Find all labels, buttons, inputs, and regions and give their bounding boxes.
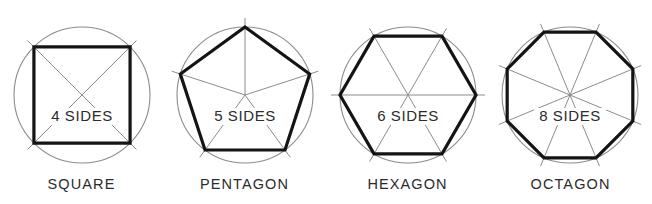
square-construction-lines: [28, 41, 137, 150]
square-radius-3: [28, 41, 82, 95]
hexagon-radius-2: [408, 95, 447, 162]
octagon-sides-label: 8 SIDES: [539, 107, 601, 124]
square-sides-label: 4 SIDES: [51, 107, 113, 124]
figure-hexagon: 6 SIDESHEXAGON: [326, 0, 489, 204]
hexagon-radius-5: [370, 28, 409, 95]
figure-pentagon: 5 SIDESPENTAGON: [163, 0, 326, 204]
square-caption: SQUARE: [0, 176, 163, 192]
hexagon-drawing: 6 SIDES: [326, 0, 489, 204]
square-radius-4: [82, 41, 136, 95]
figure-octagon: 8 SIDESOCTAGON: [489, 0, 652, 204]
octagon-caption: OCTAGON: [489, 176, 652, 192]
figure-square: 4 SIDESSQUARE: [0, 0, 163, 204]
octagon-construction-lines: [499, 24, 641, 166]
hexagon-caption: HEXAGON: [326, 176, 489, 192]
hexagon-sides-label: 6 SIDES: [377, 107, 439, 124]
octagon-drawing: 8 SIDES: [489, 0, 652, 204]
pentagon-radius-4: [200, 95, 245, 157]
pentagon-construction-lines: [172, 18, 318, 157]
polygon-construction-figure: 4 SIDESSQUARE5 SIDESPENTAGON6 SIDESHEXAG…: [0, 0, 652, 204]
hexagon-construction-lines: [331, 28, 485, 161]
pentagon-radius-3: [245, 95, 290, 157]
hexagon-radius-3: [370, 95, 409, 162]
pentagon-caption: PENTAGON: [163, 176, 326, 192]
pentagon-drawing: 5 SIDES: [163, 0, 326, 204]
hexagon-radius-6: [408, 28, 447, 95]
square-drawing: 4 SIDES: [0, 0, 163, 204]
pentagon-sides-label: 5 SIDES: [214, 107, 276, 124]
